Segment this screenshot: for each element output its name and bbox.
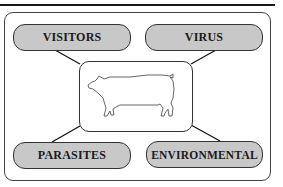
node-label: ENVIRONMENTAL [151, 149, 258, 161]
node-visitors: VISITORS [13, 24, 131, 51]
node-parasites: PARASITES [13, 142, 131, 169]
pig-icon [80, 62, 194, 133]
node-virus: VIRUS [145, 24, 263, 51]
node-label: PARASITES [38, 148, 106, 163]
node-label: VISITORS [43, 30, 102, 45]
node-label: VIRUS [185, 30, 223, 45]
node-environmental: ENVIRONMENTAL [146, 141, 263, 168]
center-node [79, 61, 193, 132]
